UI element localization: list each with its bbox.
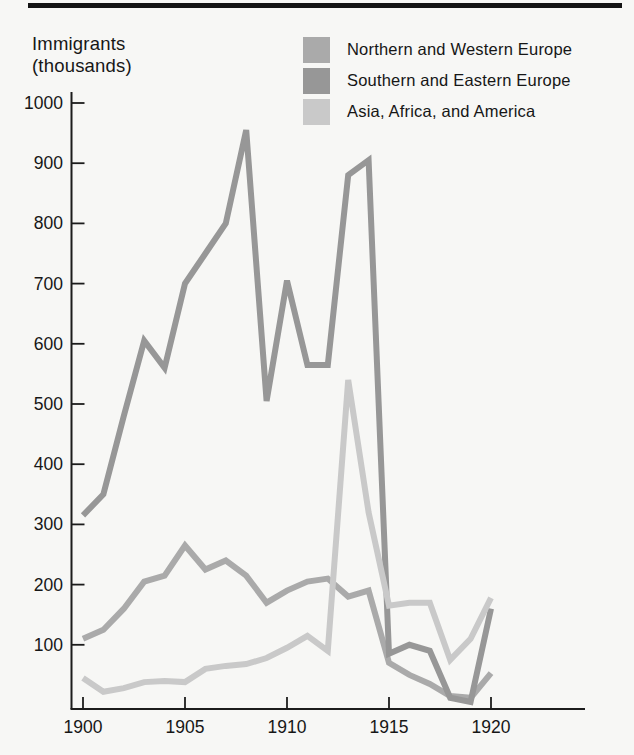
y-tick-label-500: 500 (34, 394, 63, 414)
axis-tick-labels: 1002003004005006007008009001000190019051… (24, 93, 511, 737)
y-tick-label-100: 100 (34, 635, 63, 655)
y-tick-label-400: 400 (34, 454, 63, 474)
series-line-asia-africa-and-america (83, 380, 491, 692)
chart-series (83, 130, 491, 702)
series-line-northern-and-western-europe (83, 546, 491, 698)
axis-ticks (71, 103, 491, 709)
x-tick-label-1905: 1905 (166, 717, 205, 737)
y-tick-label-300: 300 (34, 514, 63, 534)
x-tick-label-1915: 1915 (370, 717, 409, 737)
series-line-southern-and-eastern-europe (83, 130, 491, 702)
x-tick-label-1910: 1910 (268, 717, 307, 737)
x-tick-label-1920: 1920 (472, 717, 511, 737)
y-tick-label-900: 900 (34, 153, 63, 173)
y-tick-label-1000: 1000 (24, 93, 63, 113)
y-tick-label-200: 200 (34, 575, 63, 595)
line-chart: 1002003004005006007008009001000190019051… (0, 0, 634, 755)
page: Immigrants (thousands) Northern and West… (0, 0, 634, 755)
y-tick-label-700: 700 (34, 274, 63, 294)
y-tick-label-800: 800 (34, 213, 63, 233)
y-tick-label-600: 600 (34, 334, 63, 354)
x-tick-label-1900: 1900 (64, 717, 103, 737)
